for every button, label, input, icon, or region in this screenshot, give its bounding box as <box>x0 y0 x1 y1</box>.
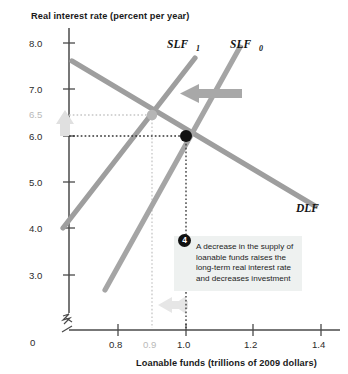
y-tick-label-8.0: 8.0 <box>29 38 42 49</box>
curve-SLF1 <box>63 58 195 228</box>
equilibrium-point-original <box>180 130 192 142</box>
curve-label-SLF1: SLF 1 <box>167 38 200 53</box>
origin-label: 0 <box>30 337 35 348</box>
x-tick-label-1.2: 1.2 <box>244 339 257 350</box>
x-tick-label-1.4: 1.4 <box>312 339 326 350</box>
y-tick-label-6.0: 6.0 <box>29 131 42 142</box>
y-tick-label-5.0: 5.0 <box>29 177 42 188</box>
annotation-step-badge: 4 <box>178 234 191 247</box>
annotation-box: A decrease in the supply of loanable fun… <box>174 236 302 291</box>
chart-canvas: Real interest rate (percent per year) 8.… <box>0 0 348 374</box>
curve-label-DLF: DLF <box>295 202 319 214</box>
curve-label-SLF1-subscript: 1 <box>196 44 200 53</box>
y-tick-label-4.0: 4.0 <box>29 223 42 234</box>
y-tick-label-6.5: 6.5 <box>29 109 42 120</box>
y-tick-label-7.0: 7.0 <box>29 84 42 95</box>
interest-rate-rise-arrow <box>56 110 74 136</box>
y-tick-label-3.0: 3.0 <box>29 270 42 281</box>
curve-label-SLF0-text: SLF <box>230 38 251 50</box>
x-tick-label-1.0: 1.0 <box>177 339 190 350</box>
y-axis-title: Real interest rate (percent per year) <box>31 11 189 21</box>
curve-label-SLF0-subscript: 0 <box>259 44 263 53</box>
equilibrium-point-new <box>147 110 157 120</box>
quantity-decrease-arrow <box>158 296 188 314</box>
loanable-funds-market-chart: Real interest rate (percent per year) 8.… <box>0 0 348 374</box>
x-tick-label-0.9: 0.9 <box>143 339 156 350</box>
curve-label-SLF1-text: SLF <box>167 38 188 50</box>
axis-break-mark-x <box>62 326 72 332</box>
x-tick-label-0.8: 0.8 <box>109 339 122 350</box>
x-axis-title: Loanable funds (trillions of 2009 dollar… <box>136 358 317 368</box>
